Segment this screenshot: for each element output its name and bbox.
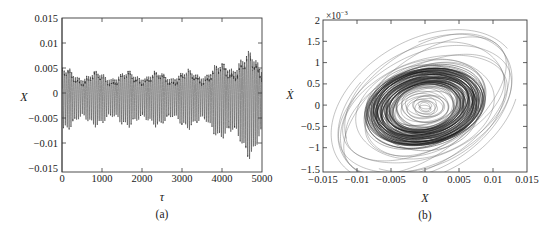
xtick-label: 2000: [132, 173, 153, 184]
ytick-label: 2: [315, 15, 320, 26]
panel-b-exponent: ×10−3: [326, 9, 348, 21]
ytick-label: −1.5: [301, 164, 320, 175]
panel-b-ylabel: Ẋ: [285, 88, 294, 102]
xtick-label: 0.01: [484, 174, 502, 185]
panel-a-plot: 0.015 0.01 0.005 0 −0.005 −0.01 −0.015 0…: [0, 0, 276, 230]
panel-a-ytick-labels: 0.015 0.01 0.005 0 −0.005 −0.01 −0.015: [28, 13, 58, 174]
ytick-label: 0.015: [34, 13, 58, 24]
panel-a-series: [62, 51, 262, 159]
ytick-label: 0.005: [34, 63, 58, 74]
ytick-label: −0.005: [28, 113, 58, 124]
ytick-label: −0.5: [301, 121, 320, 132]
panel-a-xlabel: τ: [160, 190, 165, 204]
panel-b-xtick-labels: −0.015 −0.01 −0.005 0 0.005 0.01 0.015: [308, 174, 539, 185]
xtick-label: 0: [422, 174, 427, 185]
xtick-label: 3000: [172, 173, 193, 184]
xtick-label: 4000: [212, 173, 233, 184]
panel-b-ytick-labels: 2 1.5 1 0.5 0 −0.5 −1 −1.5: [301, 15, 320, 175]
ytick-label: 1.5: [307, 36, 320, 47]
xtick-label: −0.005: [376, 174, 406, 185]
panel-a-ylabel: X: [19, 90, 28, 104]
panel-a-caption: (a): [156, 208, 169, 221]
ytick-label: 1: [315, 57, 320, 68]
panel-b-caption: (b): [418, 209, 432, 222]
ytick-label: −0.015: [28, 163, 58, 174]
xtick-label: 0: [59, 173, 64, 184]
figure-container: 0.015 0.01 0.005 0 −0.005 −0.01 −0.015 0…: [0, 0, 552, 230]
ytick-label: 0: [315, 100, 320, 111]
xtick-label: −0.01: [345, 174, 369, 185]
ytick-label: −0.01: [34, 138, 58, 149]
orbit-loop: [420, 103, 430, 112]
panel-b: ×10−3 2 1.5 1 0.5 0 −0.5 −1 −1.5 −0.015 …: [276, 0, 552, 230]
xtick-label: 0.005: [447, 174, 471, 185]
ytick-label: 0.01: [40, 38, 58, 49]
panel-b-series: [331, 30, 516, 184]
panel-a-xtick-labels: 0 1000 2000 3000 4000 5000: [59, 173, 272, 184]
ytick-label: 0.5: [307, 78, 320, 89]
ytick-label: 0: [53, 88, 58, 99]
panel-a: 0.015 0.01 0.005 0 −0.005 −0.01 −0.015 0…: [0, 0, 276, 230]
orbit-loop: [338, 45, 511, 172]
orbit-transient-arc: [331, 30, 516, 184]
xtick-label: 5000: [252, 173, 273, 184]
panel-b-plot: ×10−3 2 1.5 1 0.5 0 −0.5 −1 −1.5 −0.015 …: [276, 0, 552, 230]
xtick-label: −0.015: [308, 174, 338, 185]
xtick-label: 1000: [92, 173, 113, 184]
ytick-label: −1: [309, 142, 320, 153]
panel-b-xlabel: X: [420, 191, 429, 205]
xtick-label: 0.015: [515, 174, 539, 185]
